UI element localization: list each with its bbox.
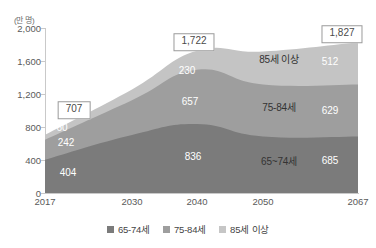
value-2017-75-84: 242 — [58, 137, 74, 148]
chart-legend: 65-74세 75-84세 85세 이상 — [0, 222, 376, 236]
x-tick-label-2067: 2067 — [347, 196, 368, 207]
x-axis-line — [45, 193, 359, 194]
value-2017-85-plus: 60 — [57, 122, 68, 133]
y-tick-label-400: 400 — [1, 155, 41, 166]
value-2067-65-74: 685 — [322, 155, 338, 166]
plot-area — [45, 28, 358, 193]
band-label-65-74: 65~74세 — [261, 153, 297, 168]
x-tick-label-2050: 2050 — [252, 196, 273, 207]
value-2017-65-74: 404 — [60, 167, 76, 178]
legend-swatch-icon-65-74 — [107, 226, 114, 233]
legend-swatch-icon-85-plus — [219, 226, 226, 233]
stacked-area-chart: (만 명) 2,000 1,600 1,200 800 400 0 85세 이상… — [0, 0, 376, 248]
y-tick-label-2000: 2,000 — [1, 23, 41, 34]
band-label-85-plus: 85세 이상 — [259, 51, 299, 66]
total-callout-2067: 1,827 — [321, 25, 362, 43]
legend-item-85-plus[interactable]: 85세 이상 — [219, 222, 269, 236]
x-tick-label-2030: 2030 — [121, 196, 142, 207]
value-2040-65-74: 836 — [185, 151, 201, 162]
value-2067-75-84: 629 — [322, 105, 338, 116]
legend-label-75-84: 75-84세 — [174, 222, 206, 236]
y-axis: 2,000 1,600 1,200 800 400 0 — [0, 0, 41, 248]
legend-item-65-74[interactable]: 65-74세 — [107, 222, 150, 236]
legend-label-65-74: 65-74세 — [118, 222, 150, 236]
total-callout-2040: 1,722 — [173, 33, 214, 51]
y-tick-label-1600: 1,600 — [1, 56, 41, 67]
area-series-group — [45, 28, 358, 193]
value-2040-75-84: 657 — [182, 96, 198, 107]
value-2040-85-plus: 230 — [179, 65, 195, 76]
x-tick-label-2017: 2017 — [34, 196, 55, 207]
legend-item-75-84[interactable]: 75-84세 — [163, 222, 206, 236]
legend-label-85-plus: 85세 이상 — [230, 222, 269, 236]
x-tick-label-2040: 2040 — [186, 196, 207, 207]
y-tick-label-1200: 1,200 — [1, 89, 41, 100]
total-callout-2017: 707 — [58, 101, 91, 119]
legend-swatch-icon-75-84 — [163, 226, 170, 233]
value-2067-85-plus: 512 — [322, 56, 338, 67]
band-label-75-84: 75-84세 — [262, 99, 295, 114]
y-tick-label-800: 800 — [1, 122, 41, 133]
y-tick-0 — [41, 193, 45, 194]
